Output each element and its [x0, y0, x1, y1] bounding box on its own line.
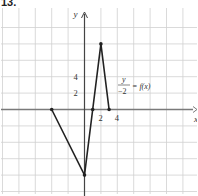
axis-labels: yx2424y−2= f(x) — [73, 9, 198, 124]
function-label-numerator: y — [121, 75, 126, 84]
vertex-point — [107, 108, 111, 112]
grid — [1, 8, 197, 194]
x-tick-label: 2 — [98, 113, 102, 123]
x-tick-label: 4 — [115, 113, 120, 123]
vertex-point — [91, 108, 95, 112]
function-label-rhs: = f(x) — [132, 82, 151, 91]
vertex-point — [50, 108, 54, 112]
y-axis-label: y — [73, 9, 78, 19]
axes — [1, 12, 197, 196]
vertex-point — [83, 173, 87, 177]
y-tick-label: 2 — [74, 88, 78, 98]
x-axis-arrow-icon — [193, 107, 197, 113]
vertex-point — [99, 42, 103, 46]
x-axis-label: x — [193, 114, 197, 124]
coordinate-plane: yx2424y−2= f(x) — [0, 0, 197, 196]
function-label-denominator: −2 — [118, 87, 127, 96]
